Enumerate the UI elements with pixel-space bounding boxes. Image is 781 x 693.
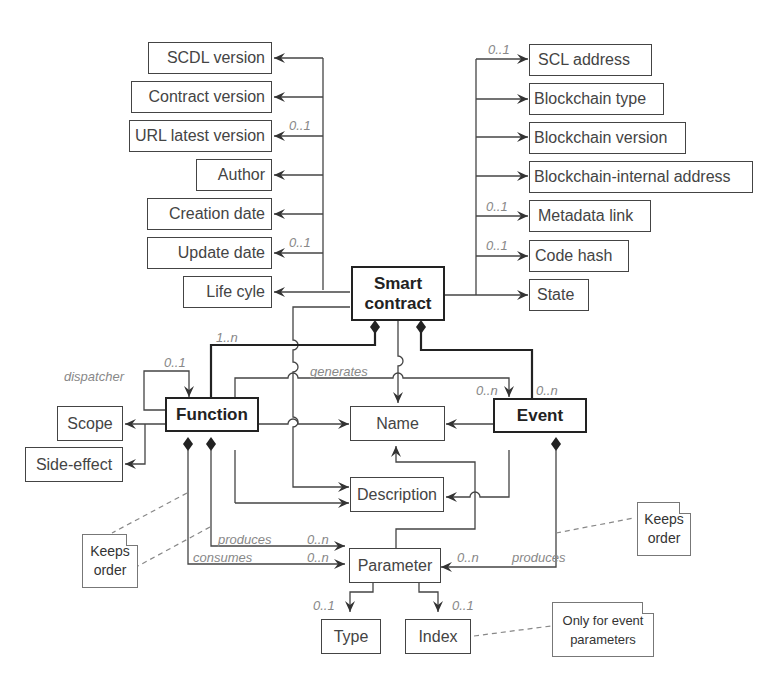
entity-smart-contract: Smart contract [351,266,445,321]
attr-url-latest-version: URL latest version [129,120,272,152]
attr-label: Blockchain-internal address [534,168,731,186]
entity-label: Event [517,406,563,426]
edge-side-effect [125,424,145,464]
entity-function: Function [165,397,259,432]
label-generates-mult: 0..n [476,383,498,398]
attr-author: Author [196,159,272,191]
entity-label: Side-effect [36,456,112,474]
note-text: Only for event parameters [555,611,651,649]
attr-label: State [537,286,574,304]
attr-code-hash: Code hash [529,240,629,272]
mult-metadata-link: 0..1 [486,199,508,214]
entity-parameter: Parameter [349,548,441,583]
entity-label: Name [376,415,419,433]
label-dispatcher: dispatcher [64,369,124,384]
attr-label: Author [218,166,265,184]
entity-label: Index [418,628,457,646]
note-text: Keeps order [88,542,132,580]
label-produces-function-mult: 0..n [307,532,329,547]
attr-label: Life cyle [206,283,265,301]
mult-update-date: 0..1 [289,235,311,250]
edge-event-description [446,450,509,497]
note-only-event-parameters: Only for event parameters [552,602,654,657]
attr-label: Creation date [169,205,265,223]
attr-label: SCDL version [167,49,265,67]
entity-label: Smart contract [363,274,433,314]
mult-url-latest-version: 0..1 [289,118,311,133]
edge-parameter-type [350,580,373,612]
edge-contract-description [293,307,350,487]
label-type-mult: 0..1 [313,598,335,613]
entity-label: Function [176,405,248,425]
attr-label: Metadata link [538,207,633,225]
label-function-mult: 1..n [216,330,238,345]
attr-metadata-link: Metadata link [529,200,651,232]
label-dispatcher-mult: 0..1 [164,355,186,370]
attr-state: State [529,279,589,311]
entity-side-effect: Side-effect [25,447,123,482]
edge-parameter-index [419,580,438,612]
attr-blockchain-internal-address: Blockchain-internal address [529,161,753,193]
entity-label: Parameter [358,557,433,575]
entity-label: Type [334,628,369,646]
edge-generates [235,373,509,398]
attr-label: Contract version [149,88,266,106]
note-fold-icon [679,502,691,514]
attr-label: Code hash [535,247,612,265]
attr-label: SCL address [538,51,630,69]
note-fold-icon [642,602,654,614]
attr-label: Blockchain version [534,129,667,147]
attr-scdl-version: SCDL version [148,42,272,74]
smart-contract-uml-diagram: SCDL version Contract version URL latest… [0,0,781,693]
entity-event: Event [493,398,587,433]
label-generates: generates [310,364,368,379]
label-index-mult: 0..1 [452,598,474,613]
attr-scl-address: SCL address [529,44,652,76]
edge-function-name [259,419,349,424]
label-produces-event-mult: 0..n [457,550,479,565]
entity-label: Scope [67,415,112,433]
entity-type: Type [321,619,381,654]
entity-name: Name [350,406,445,441]
mult-code-hash: 0..1 [486,238,508,253]
label-produces-function: produces [218,532,271,547]
label-consumes-mult: 0..n [307,550,329,565]
attr-label: Update date [178,244,265,262]
entity-scope: Scope [57,406,123,441]
attr-blockchain-type: Blockchain type [529,83,664,115]
attr-contract-version: Contract version [131,81,272,113]
entity-index: Index [405,619,471,654]
label-produces-event: produces [512,550,565,565]
mult-scl-address: 0..1 [488,42,510,57]
attr-label: Blockchain type [534,90,646,108]
attr-update-date: Update date [147,237,272,269]
attr-label: URL latest version [135,127,265,145]
attr-life-cycle: Life cyle [183,276,272,308]
entity-description: Description [350,477,444,512]
edge-contract-name [398,320,403,403]
note-text: Keeps order [642,510,686,548]
label-event-mult: 0..n [536,383,558,398]
entity-label: Description [357,486,437,504]
note-fold-icon [126,534,138,546]
attr-creation-date: Creation date [147,198,272,230]
label-consumes: consumes [193,550,252,565]
attr-blockchain-version: Blockchain version [529,122,686,154]
